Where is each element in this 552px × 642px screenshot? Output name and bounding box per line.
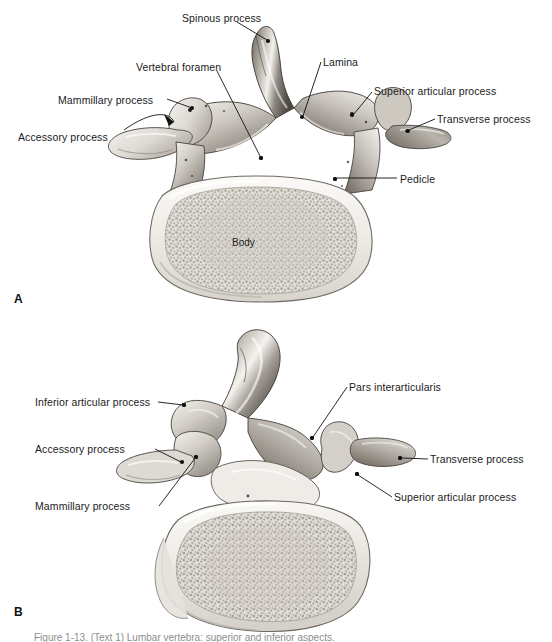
right-lamina-shape [294, 91, 379, 136]
panel-letter-b: B [14, 605, 23, 619]
label-transverse-process-b: Transverse process [430, 453, 524, 465]
label-lamina: Lamina [323, 56, 358, 68]
label-body: Body [232, 237, 255, 248]
label-inferior-articular-process: Inferior articular process [35, 396, 150, 408]
label-vertebral-foramen: Vertebral foramen [136, 61, 221, 73]
left-transverse-process-shape-b [117, 450, 195, 483]
spinous-process-shape [252, 26, 294, 118]
label-pedicle: Pedicle [400, 173, 435, 185]
panel-b-inferior-view: Pars interarticularis Inferior articular… [0, 320, 552, 642]
label-pars-interarticularis: Pars interarticularis [349, 381, 441, 393]
vertebra-inferior-illustration [0, 320, 552, 642]
label-transverse-process: Transverse process [437, 113, 531, 125]
spinous-process-shape-b [222, 330, 280, 418]
panel-letter-a: A [14, 292, 23, 306]
label-superior-articular-process-b: Superior articular process [394, 491, 516, 503]
label-spinous-process: Spinous process [182, 12, 261, 24]
label-accessory-process: Accessory process [18, 131, 108, 143]
vertebra-superior-illustration [0, 0, 552, 320]
right-pedicle-shape [344, 128, 380, 194]
figure-caption: Figure 1-13. (Text 1) Lumbar vertebra: s… [34, 632, 534, 642]
label-accessory-process-b: Accessory process [35, 443, 125, 455]
figure-root: Spinous process Lamina Vertebral foramen… [0, 0, 552, 642]
label-mammillary-process: Mammillary process [58, 94, 153, 106]
label-mammillary-process-b: Mammillary process [35, 500, 130, 512]
panel-a-superior-view: Spinous process Lamina Vertebral foramen… [0, 0, 552, 320]
label-superior-articular-process: Superior articular process [374, 85, 496, 97]
